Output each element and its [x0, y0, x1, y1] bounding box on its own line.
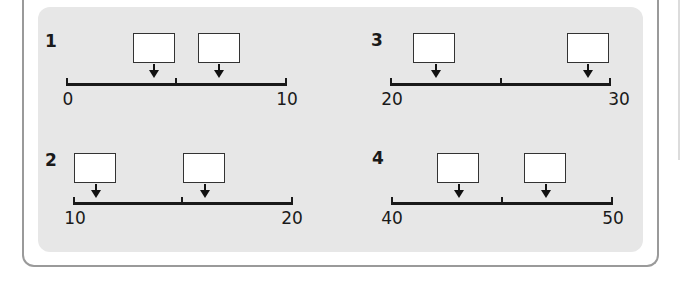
answer-box-1[interactable]: [413, 33, 455, 63]
arrow-down-icon: [587, 64, 589, 76]
arrow-down-icon: [545, 184, 547, 196]
tick-start: [66, 78, 68, 86]
tick-end: [609, 78, 611, 86]
tick-start: [391, 197, 393, 205]
answer-box-2[interactable]: [183, 153, 225, 183]
arrow-down-icon: [204, 184, 206, 196]
answer-box-2[interactable]: [524, 153, 566, 183]
end-label: 50: [602, 208, 624, 228]
answer-box-1[interactable]: [437, 153, 479, 183]
end-label: 30: [608, 89, 630, 109]
end-label: 10: [276, 89, 298, 109]
arrow-down-icon: [153, 64, 155, 76]
problem-number: 4: [372, 148, 384, 168]
number-line: [67, 83, 287, 86]
tick-mid: [175, 78, 177, 86]
number-line: [74, 202, 293, 205]
arrow-down-icon: [218, 64, 220, 76]
answer-box-1[interactable]: [133, 33, 175, 63]
answer-box-2[interactable]: [198, 33, 240, 63]
exercise-panel: [38, 7, 643, 252]
start-label: 20: [381, 89, 403, 109]
arrow-down-icon: [95, 184, 97, 196]
problem-number: 1: [45, 31, 57, 51]
tick-end: [285, 78, 287, 86]
tick-end: [291, 197, 293, 205]
tick-mid: [500, 78, 502, 86]
problem-number: 2: [45, 150, 57, 170]
tick-start: [390, 78, 392, 86]
start-label: 10: [64, 208, 86, 228]
tick-mid: [181, 197, 183, 205]
arrow-down-icon: [458, 184, 460, 196]
problem-number: 3: [371, 30, 383, 50]
answer-box-2[interactable]: [567, 33, 609, 63]
answer-box-1[interactable]: [74, 153, 116, 183]
tick-start: [73, 197, 75, 205]
end-label: 20: [281, 208, 303, 228]
arrow-down-icon: [435, 64, 437, 76]
start-label: 40: [381, 208, 403, 228]
start-label: 0: [63, 89, 74, 109]
tick-mid: [501, 197, 503, 205]
tick-end: [611, 197, 613, 205]
